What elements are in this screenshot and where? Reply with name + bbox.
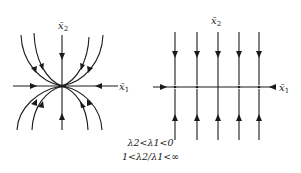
left-phase-portrait: x̄2 x̄1 [13,20,129,130]
left-trajectory-upper-outer-right [62,35,103,86]
left-curve-arrow-8 [87,99,93,106]
left-x1-axis-arrow-left [30,83,37,89]
left-trajectory-upper-outer-left [21,35,62,86]
right-x1-axis-arrow-left [160,84,167,90]
left-x2-axis-arrow-top [59,53,65,60]
left-x2-axis-arrow-bottom [59,113,65,120]
left-trajectory-lower-outer-left [17,86,62,130]
eigenvalue-ratio-condition-line-2: 1<λ2/λ1<∞ [0,152,301,162]
left-x2-label: x̄2 [58,20,68,33]
right-phase-portrait: x̄2 x̄1 [153,15,289,140]
left-curve-arrow-7 [80,101,86,108]
right-vertical-trajectory-4 [236,32,242,140]
left-trajectory-lower-inner-left [32,86,62,130]
right-x1-label: x̄1 [279,82,289,95]
right-x1-axis-arrow-right [269,84,276,90]
left-x1-label: x̄1 [119,81,129,94]
left-trajectory-upper-inner-left [34,33,62,86]
left-trajectory-upper-inner-right [62,37,89,86]
eigenvalue-condition-line-1: λ2<λ1<0 [0,138,301,148]
right-x2-label: x̄2 [211,15,221,28]
left-equilibrium-point [58,84,66,87]
right-vertical-trajectory-5 [256,32,262,140]
right-vertical-trajectory-1 [172,32,178,140]
left-trajectory-lower-outer-right [62,86,102,130]
right-vertical-trajectory-2 [194,32,200,140]
left-x1-axis-arrow-right [95,83,102,89]
left-trajectory-lower-inner-right [62,86,88,130]
right-vertical-trajectory-3 [215,32,221,140]
